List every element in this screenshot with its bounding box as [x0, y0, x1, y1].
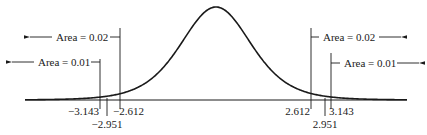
tick-label-pos-2951: 2.951	[313, 118, 338, 130]
right-area-001-label: Area = 0.01	[344, 57, 396, 69]
tick-label-neg-3143: −3.143	[68, 105, 99, 117]
density-curve	[25, 7, 407, 100]
tick-label-neg-2612: −2.612	[113, 105, 144, 117]
t-distribution-diagram: Area = 0.02 Area = 0.01 Area = 0.02 Area…	[0, 0, 427, 135]
left-area-001-label: Area = 0.01	[38, 56, 90, 68]
left-area-002-label: Area = 0.02	[56, 31, 108, 43]
right-area-002-label: Area = 0.02	[323, 31, 375, 43]
tick-label-pos-2612: 2.612	[285, 105, 310, 117]
tick-label-neg-2951: −2.951	[92, 118, 123, 130]
tick-label-pos-3143: 3.143	[329, 105, 354, 117]
